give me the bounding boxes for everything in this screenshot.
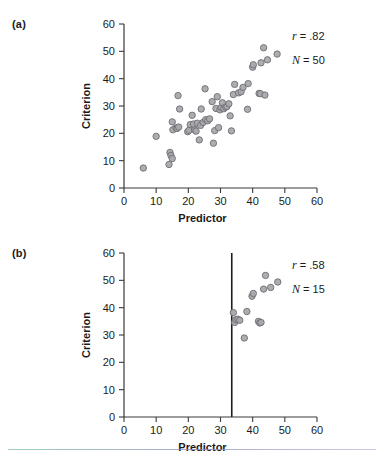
x-axis-title: Predictor: [178, 212, 227, 224]
data-point: [260, 286, 266, 292]
data-point: [275, 279, 281, 285]
x-tick-label: 10: [150, 195, 162, 207]
y-tick-label: 30: [103, 329, 115, 341]
y-tick-label: 10: [103, 384, 115, 396]
y-tick-label: 10: [103, 155, 115, 167]
data-point: [226, 101, 232, 107]
data-point: [274, 51, 280, 57]
y-tick-label: 40: [103, 302, 115, 314]
data-point: [206, 116, 212, 122]
data-point: [237, 317, 243, 323]
data-point: [153, 133, 159, 139]
data-point: [250, 290, 256, 296]
data-point: [198, 106, 204, 112]
data-point: [250, 62, 256, 68]
data-point: [244, 106, 250, 112]
data-point: [210, 140, 216, 146]
y-tick-label: 30: [103, 100, 115, 112]
y-axis-title: Criterion: [80, 312, 92, 358]
x-tick-label: 40: [247, 424, 259, 436]
y-tick-label: 50: [103, 45, 115, 57]
x-tick-label: 10: [150, 424, 162, 436]
data-point: [231, 81, 237, 87]
data-point: [189, 112, 195, 118]
data-point: [262, 92, 268, 98]
data-point: [228, 128, 234, 134]
data-point: [166, 161, 172, 167]
n-symbol: N: [292, 282, 300, 296]
r-symbol: r: [292, 258, 297, 272]
y-tick-label: 50: [103, 274, 115, 286]
data-point: [241, 335, 247, 341]
data-point: [209, 98, 215, 104]
data-point: [264, 57, 270, 63]
data-point: [214, 94, 220, 100]
data-point: [202, 86, 208, 92]
data-point: [230, 309, 236, 315]
y-tick-label: 20: [103, 356, 115, 368]
x-tick-label: 20: [182, 195, 194, 207]
x-tick-label: 0: [121, 424, 127, 436]
r-symbol: r: [292, 29, 297, 43]
x-tick-label: 50: [279, 424, 291, 436]
data-point: [245, 80, 251, 86]
x-tick-label: 30: [214, 195, 226, 207]
x-tick-label: 40: [247, 195, 259, 207]
data-point: [193, 128, 199, 134]
panel-b-sample-size: N = 15: [292, 283, 378, 296]
data-point: [262, 272, 268, 278]
n-value: = 15: [303, 283, 325, 295]
x-tick-label: 20: [182, 424, 194, 436]
data-point: [175, 124, 181, 130]
panel-a-correlation: r = .82: [292, 30, 378, 43]
panel-a: (a) 01020304050600102030405060PredictorC…: [0, 0, 384, 229]
data-point: [260, 45, 266, 51]
panel-a-sample-size: N = 50: [292, 54, 378, 67]
panel-b-statistics: r = .58 N = 15: [284, 259, 378, 306]
data-point: [258, 319, 264, 325]
x-tick-label: 30: [214, 424, 226, 436]
data-point: [227, 113, 233, 119]
data-point: [175, 92, 181, 98]
panel-a-statistics: r = .82 N = 50: [284, 30, 378, 77]
data-point: [215, 124, 221, 130]
data-point: [267, 284, 273, 290]
y-axis-title: Criterion: [80, 83, 92, 129]
data-points: [140, 45, 280, 172]
y-tick-label: 20: [103, 127, 115, 139]
data-point: [140, 165, 146, 171]
scatterplot-figure: (a) 01020304050600102030405060PredictorC…: [0, 0, 384, 458]
page-bottom-rule: [8, 449, 376, 450]
r-value: = .58: [300, 259, 325, 271]
data-point: [169, 155, 175, 161]
data-point: [169, 119, 175, 125]
n-symbol: N: [292, 53, 300, 67]
data-point: [176, 106, 182, 112]
y-tick-label: 60: [103, 18, 115, 30]
x-tick-label: 0: [121, 195, 127, 207]
y-tick-label: 40: [103, 73, 115, 85]
y-tick-label: 0: [109, 411, 115, 423]
panel-b-correlation: r = .58: [292, 259, 378, 272]
x-tick-label: 60: [311, 195, 323, 207]
x-tick-label: 60: [311, 424, 323, 436]
r-value: = .82: [300, 30, 325, 42]
data-point: [244, 308, 250, 314]
y-tick-label: 60: [103, 247, 115, 259]
y-tick-label: 0: [109, 182, 115, 194]
n-value: = 50: [303, 54, 325, 66]
data-point: [196, 137, 202, 143]
x-axis-title: Predictor: [178, 441, 227, 453]
data-points: [230, 272, 281, 341]
data-point: [258, 60, 264, 66]
x-tick-label: 50: [279, 195, 291, 207]
panel-b: (b) 01020304050600102030405060PredictorC…: [0, 229, 384, 458]
